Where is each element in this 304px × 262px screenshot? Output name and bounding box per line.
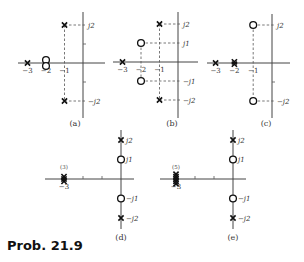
pole-zero-diagrams: −3−2−1j2−j2(a)−3−2−1j2j1−j1−j2(b)−3−2−1j… (0, 0, 304, 262)
imag-axis-label: j2 (124, 137, 133, 145)
zero-marker (250, 98, 257, 105)
panel-b: −3−2−1j2j1−j1−j2(b) (113, 12, 198, 128)
real-axis-label: −3 (22, 67, 32, 75)
zero-marker (138, 78, 145, 85)
zero-marker (43, 63, 50, 70)
multiplicity-label: (5) (172, 164, 180, 170)
real-axis-label: −3 (210, 67, 220, 75)
real-axis-label: −3 (59, 183, 69, 191)
real-axis-label: −2 (136, 66, 146, 74)
imag-axis-label: j2 (181, 21, 190, 29)
zero-marker (118, 156, 125, 163)
imag-axis-label: j2 (275, 22, 284, 30)
panel-d: −3j2j1−j1−j2(3)(d) (45, 130, 139, 242)
imag-axis-label: −j2 (88, 98, 101, 106)
real-axis-label: −3 (117, 66, 127, 74)
real-axis-label: −2 (229, 67, 239, 75)
zero-marker (138, 40, 145, 47)
panel-caption: (e) (228, 233, 239, 242)
zero-marker (250, 22, 257, 29)
zero-marker (230, 195, 237, 202)
zero-marker (118, 195, 125, 202)
panel-caption: (a) (69, 119, 80, 128)
imag-axis-label: −j2 (126, 215, 139, 223)
imag-axis-label: −j2 (238, 215, 251, 223)
multiplicity-label: (3) (60, 164, 68, 170)
imag-axis-label: −j2 (183, 97, 196, 105)
real-axis-label: −1 (248, 67, 258, 75)
zero-marker (230, 156, 237, 163)
imag-axis-label: −j1 (183, 78, 196, 86)
imag-axis-label: j1 (181, 40, 190, 48)
panel-caption: (b) (166, 119, 177, 128)
imag-axis-label: j1 (124, 156, 133, 164)
panel-caption: (d) (115, 233, 126, 242)
imag-axis-label: −j2 (277, 98, 290, 106)
panel-a: −3−2−1j2−j2(a) (18, 12, 105, 128)
panel-c: −3−2−1j2−j2(c) (207, 14, 290, 128)
problem-title: Prob. 21.9 (7, 238, 83, 253)
real-axis-label: −1 (154, 66, 164, 74)
panel-caption: (c) (261, 119, 272, 128)
imag-axis-label: j1 (236, 156, 245, 164)
panel-e: −3j2j1−j1−j2(5)(e) (160, 130, 251, 242)
imag-axis-label: j2 (86, 22, 95, 30)
imag-axis-label: j2 (236, 137, 245, 145)
imag-axis-label: −j1 (238, 195, 251, 203)
imag-axis-label: −j1 (126, 195, 139, 203)
real-axis-label: −1 (59, 67, 69, 75)
